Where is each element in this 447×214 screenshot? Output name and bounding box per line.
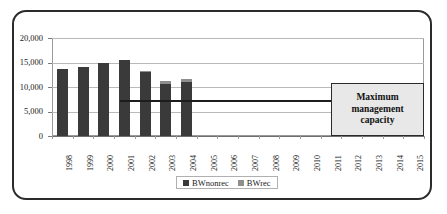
y-axis-tick-label: 0: [0, 132, 48, 141]
x-axis-tick-label-2015: 2015: [417, 155, 425, 171]
bar-segment-bwnonrec: [140, 72, 151, 136]
x-axis-tick-label-2014: 2014: [397, 155, 405, 171]
legend-entry-bwrec: BWrec: [238, 178, 271, 188]
x-axis-tick-mark: [93, 136, 94, 139]
x-axis-tick-label-2010: 2010: [314, 155, 322, 171]
x-axis-tick-mark: [52, 136, 53, 139]
legend-label-bwnonrec: BWnonrec: [192, 178, 229, 188]
x-axis-tick-label-2012: 2012: [355, 155, 363, 171]
y-axis-tick-label: 20,000: [0, 34, 48, 43]
x-axis-tick-mark: [341, 136, 342, 139]
bar-1998: [57, 69, 68, 136]
x-axis-tick-label-2002: 2002: [149, 155, 157, 171]
bar-2000: [98, 63, 109, 136]
x-axis-tick-mark: [403, 136, 404, 139]
x-axis-tick-mark: [383, 136, 384, 139]
x-axis-tick-label-2006: 2006: [231, 155, 239, 171]
legend-label-bwrec: BWrec: [247, 178, 271, 188]
y-axis-tick-label: 10,000: [0, 83, 48, 92]
x-axis-tick-label-2008: 2008: [273, 155, 281, 171]
bar-segment-bwnonrec: [57, 69, 68, 136]
x-axis-tick-label-2005: 2005: [211, 155, 219, 171]
maximum-management-capacity-callout: Maximum management capacity: [331, 83, 424, 136]
x-axis-tick-label-2011: 2011: [335, 155, 343, 171]
x-axis-tick-mark: [155, 136, 156, 139]
x-axis-tick-mark: [362, 136, 363, 139]
bar-segment-bwnonrec: [160, 84, 171, 136]
x-axis-tick-mark: [176, 136, 177, 139]
x-axis-tick-mark: [217, 136, 218, 139]
y-axis-tick-label: 5,000: [0, 107, 48, 116]
x-axis-tick-mark: [259, 136, 260, 139]
x-axis-tick-label-2000: 2000: [107, 155, 115, 171]
x-axis-tick-mark: [114, 136, 115, 139]
x-axis-labels: 1998199920002001200220032004200520062007…: [52, 140, 424, 174]
x-axis-tick-label-2013: 2013: [376, 155, 384, 171]
x-axis-tick-mark: [135, 136, 136, 139]
x-axis-tick-label-1999: 1999: [87, 155, 95, 171]
bar-2001: [119, 60, 130, 136]
x-axis-tick-label-2001: 2001: [128, 155, 136, 171]
x-axis-tick-label-2003: 2003: [169, 155, 177, 171]
x-axis-tick-mark: [300, 136, 301, 139]
chart-legend: BWnonrec BWrec: [176, 176, 278, 189]
y-axis-tick-label: 15,000: [0, 58, 48, 67]
x-axis-tick-mark: [73, 136, 74, 139]
legend-swatch-icon-bwnonrec: [183, 180, 189, 186]
x-axis-tick-label-1998: 1998: [66, 155, 74, 171]
x-axis-tick-label-2007: 2007: [252, 155, 260, 171]
bar-1999: [78, 67, 89, 136]
bar-segment-bwnonrec: [119, 60, 130, 136]
x-axis-tick-label-2004: 2004: [190, 155, 198, 171]
bar-segment-bwnonrec: [98, 63, 109, 136]
x-axis-tick-mark: [424, 136, 425, 139]
x-axis-tick-mark: [279, 136, 280, 139]
x-axis-tick-label-2009: 2009: [293, 155, 301, 171]
x-axis-tick-mark: [197, 136, 198, 139]
bar-segment-bwnonrec: [78, 67, 89, 136]
legend-entry-bwnonrec: BWnonrec: [183, 178, 229, 188]
bar-2002: [140, 71, 151, 136]
bar-chart: 05,00010,00015,00020,000 199819992000200…: [0, 0, 447, 214]
bar-segment-bwnonrec: [181, 82, 192, 136]
bar-2003: [160, 81, 171, 136]
legend-swatch-icon-bwrec: [238, 180, 244, 186]
callout-text: Maximum management capacity: [335, 92, 420, 127]
bar-2004: [181, 79, 192, 136]
x-axis-tick-mark: [321, 136, 322, 139]
x-axis-tick-mark: [238, 136, 239, 139]
